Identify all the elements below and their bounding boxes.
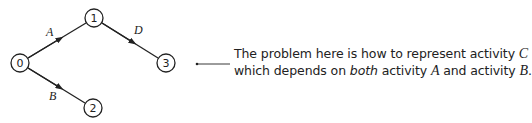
edge-label-d: D [133,23,143,37]
activity-b-var: B [519,63,527,78]
edge-a: A [28,23,86,58]
annotation-text-segment: and activity [439,63,519,78]
callout-leader [196,63,230,66]
node-label-0: 0 [17,57,24,70]
annotation-text-segment: . [528,63,532,78]
node-label-3: 3 [163,57,170,70]
node-1: 1 [85,9,103,27]
annotation-text: The problem here is how to represent act… [234,45,514,79]
node-label-1: 1 [91,12,98,25]
annotation-text-segment: which depends on [234,63,350,78]
activity-c-var: C [519,46,528,61]
node-3: 3 [157,54,175,72]
annotation-text-segment: activity [378,63,431,78]
annotation-text-segment: The problem here is how to represent act… [234,46,519,61]
emphasis-both: both [350,63,378,78]
edge-label-a: A [45,25,54,39]
edge-d: D [102,23,158,58]
edge-b: B [28,68,85,103]
node-label-2: 2 [90,102,97,115]
node-2: 2 [84,99,102,117]
annotation-line-1: The problem here is how to represent act… [234,45,514,62]
annotation-line-2: which depends on both activity A and act… [234,62,514,79]
node-0: 0 [11,54,29,72]
edge-label-b: B [49,89,57,103]
